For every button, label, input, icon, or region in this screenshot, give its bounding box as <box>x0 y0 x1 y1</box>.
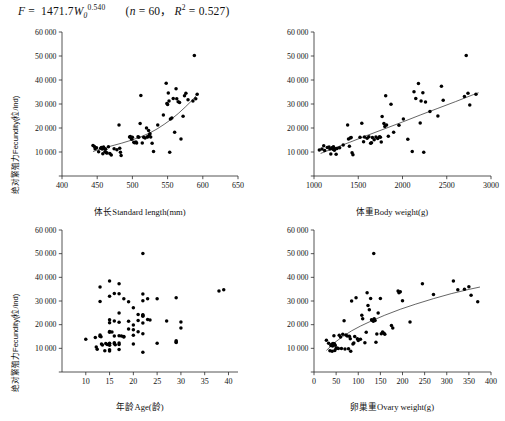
y-axis-label-standard-length: 绝对繁殖力Fecundity(粒/ind) <box>9 96 20 194</box>
data-point <box>365 291 369 295</box>
data-point <box>141 314 145 318</box>
data-point <box>338 146 342 150</box>
data-point <box>467 285 471 289</box>
data-point <box>113 334 117 338</box>
data-point <box>452 279 456 283</box>
data-point <box>141 351 145 355</box>
data-point <box>349 349 353 353</box>
data-point <box>474 92 478 96</box>
equation-eq-sign: = <box>28 5 35 17</box>
data-point <box>432 293 436 297</box>
data-point <box>363 341 367 345</box>
data-point <box>117 123 121 127</box>
y-tick-label: 20 000 <box>287 320 309 329</box>
regression-equation: F =1471.7W00.540 (n = 60， R2 = 0.527) <box>18 2 230 20</box>
data-point <box>373 319 377 323</box>
data-point <box>155 341 159 345</box>
x-tick-label: 350 <box>463 377 475 386</box>
data-point <box>108 279 112 283</box>
data-point <box>141 332 145 336</box>
data-point <box>342 319 346 323</box>
data-point <box>456 288 460 292</box>
data-point <box>167 99 171 103</box>
data-point <box>107 145 111 149</box>
data-point <box>148 132 152 136</box>
plot-body-weight: 10 00020 00030 00040 00050 00060 0001000… <box>252 24 505 222</box>
data-point <box>117 348 121 352</box>
data-point <box>349 136 353 140</box>
y-tick-label: 40 000 <box>287 76 309 85</box>
data-point <box>97 150 101 154</box>
data-point <box>374 340 378 344</box>
data-point <box>323 149 327 153</box>
x-axis-label-age: 年龄Age(龄) <box>45 400 235 412</box>
data-point <box>141 299 145 303</box>
data-point <box>156 123 160 127</box>
data-point <box>179 326 183 330</box>
equation-exponent: 0.540 <box>88 3 106 12</box>
data-point <box>379 136 383 140</box>
data-point <box>380 140 384 144</box>
x-axis-label-standard-length: 体长Standard length(mm) <box>45 205 235 217</box>
data-point <box>117 343 121 347</box>
data-point <box>108 321 112 325</box>
data-point <box>118 146 122 150</box>
data-point <box>222 288 226 292</box>
data-point <box>340 347 344 351</box>
data-point <box>361 317 365 321</box>
data-point <box>194 97 198 101</box>
data-point <box>95 146 99 150</box>
data-point <box>101 343 105 347</box>
data-point <box>181 114 185 118</box>
data-point <box>346 123 350 127</box>
data-point <box>195 92 199 96</box>
data-point <box>341 332 345 336</box>
data-point <box>391 326 395 330</box>
plot-ovary-weight: 10 00020 00030 00040 00050 00060 0000501… <box>252 222 505 421</box>
y-tick-label: 60 000 <box>287 28 309 37</box>
y-tick-label: 20 000 <box>35 320 57 329</box>
data-point <box>375 332 379 336</box>
data-point <box>329 152 333 156</box>
data-point <box>135 141 139 145</box>
data-point <box>463 287 467 291</box>
axis-lines <box>314 32 491 176</box>
equation-coefficient: 1471.7 <box>41 5 74 17</box>
data-point <box>137 136 141 140</box>
data-point <box>122 297 126 301</box>
fit-curve <box>326 287 480 350</box>
x-tick-label: 150 <box>374 377 386 386</box>
y-tick-label: 40 000 <box>35 273 57 282</box>
data-point <box>138 122 142 126</box>
x-tick-label: 550 <box>162 181 174 190</box>
data-point <box>174 296 178 300</box>
data-point <box>150 142 154 146</box>
panel-body-weight: 10 00020 00030 00040 00050 00060 0001000… <box>252 24 505 222</box>
y-tick-label: 60 000 <box>287 226 309 235</box>
data-point <box>401 299 405 303</box>
data-point <box>98 285 102 289</box>
axis-lines <box>62 32 238 176</box>
data-point <box>360 313 364 317</box>
data-point <box>110 330 114 334</box>
y-tick-label: 20 000 <box>287 124 309 133</box>
x-tick-label: 650 <box>232 181 244 190</box>
data-point <box>359 338 363 342</box>
panel-age: 10 00020 00030 00040 00050 00060 0001015… <box>0 222 252 421</box>
data-point <box>418 121 422 125</box>
plot-age: 10 00020 00030 00040 00050 00060 0001015… <box>0 222 252 421</box>
data-point <box>379 297 383 301</box>
data-point <box>108 295 112 299</box>
data-point <box>141 252 145 256</box>
data-point <box>167 91 171 95</box>
data-point <box>148 318 152 322</box>
x-tick-label: 100 <box>352 377 364 386</box>
data-point <box>108 344 112 348</box>
data-point <box>376 311 380 315</box>
data-point <box>178 101 182 105</box>
data-point <box>131 136 135 140</box>
x-tick-label: 1000 <box>306 181 322 190</box>
x-tick-label: 35 <box>201 377 209 386</box>
data-point <box>166 103 170 107</box>
data-point <box>149 135 153 139</box>
